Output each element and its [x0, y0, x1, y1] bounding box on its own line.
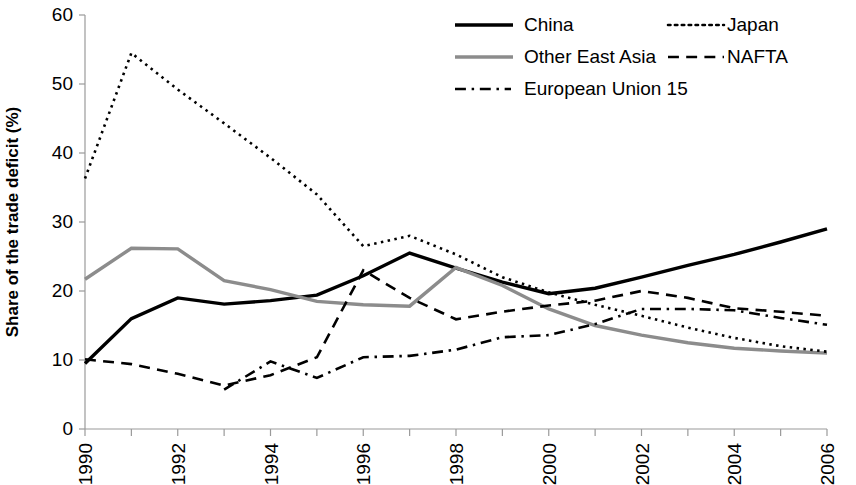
y-axis-tick-label: 0 — [62, 418, 73, 439]
x-axis-tick-label: 1996 — [353, 443, 374, 485]
y-axis-title: Share of the trade deficit (%) — [3, 107, 22, 337]
x-axis-tick-label: 2006 — [817, 443, 838, 485]
y-axis-tick-label: 10 — [52, 349, 73, 370]
x-axis-tick-label: 2004 — [724, 443, 745, 485]
x-axis-tick-label: 1998 — [446, 443, 467, 485]
y-axis-tick-label: 50 — [52, 73, 73, 94]
legend-label-japan: Japan — [727, 14, 779, 35]
y-axis-tick-label: 60 — [52, 4, 73, 25]
x-axis-tick-label: 1994 — [261, 443, 282, 485]
y-axis-tick-label: 30 — [52, 211, 73, 232]
line-chart: 0102030405060 19901992199419961998200020… — [0, 0, 856, 485]
x-axis-tick-label: 2000 — [539, 443, 560, 485]
y-axis-tick-label: 40 — [52, 142, 73, 163]
x-axis-tick-label: 1992 — [168, 443, 189, 485]
legend-label-nafta: NAFTA — [727, 46, 788, 67]
legend-label-other-east-asia: Other East Asia — [524, 46, 656, 67]
y-axis-tick-label: 20 — [52, 280, 73, 301]
chart-canvas: 0102030405060 19901992199419961998200020… — [0, 0, 856, 485]
x-axis-tick-label: 1990 — [75, 443, 96, 485]
x-axis-tick-label: 2002 — [632, 443, 653, 485]
legend-label-european-union-15: European Union 15 — [524, 78, 688, 99]
legend-label-china: China — [524, 14, 574, 35]
